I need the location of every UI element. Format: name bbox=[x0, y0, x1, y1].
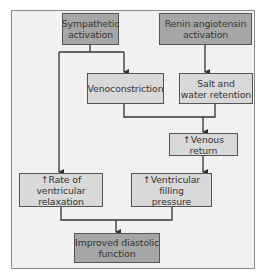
node-improved-diastolic-function: Improved diastolicfunction bbox=[74, 233, 160, 263]
node-rate-ventricular-relaxation: ↑Rate of ventricularrelaxation bbox=[19, 173, 103, 207]
node-label: Salt and bbox=[197, 78, 234, 89]
node-sympathetic-activation: Sympatheticactivation bbox=[62, 13, 119, 45]
node-label: activation bbox=[68, 29, 113, 40]
node-label: Improved diastolic bbox=[75, 237, 159, 248]
node-label: Renin angiotensin bbox=[165, 18, 247, 29]
node-label: ↑Rate of ventricular bbox=[36, 174, 85, 196]
node-salt-water-retention: Salt andwater retention bbox=[179, 73, 253, 104]
node-renin-angiotensin-activation: Renin angiotensinactivation bbox=[159, 13, 252, 45]
node-ventricular-filling-pressure: ↑Ventricular fillingpressure bbox=[131, 173, 212, 207]
node-label: Sympathetic bbox=[62, 18, 120, 29]
node-label: pressure bbox=[152, 196, 191, 207]
node-label: Venoconstriction bbox=[88, 83, 164, 94]
node-label: ↑Ventricular filling bbox=[143, 174, 200, 196]
node-label: relaxation bbox=[38, 196, 84, 207]
node-label: water retention bbox=[181, 89, 251, 100]
node-label: function bbox=[98, 248, 135, 259]
node-label: ↑Venous return bbox=[170, 134, 237, 156]
node-venous-return: ↑Venous return bbox=[169, 133, 238, 156]
node-venoconstriction: Venoconstriction bbox=[87, 73, 164, 104]
node-label: activation bbox=[183, 29, 228, 40]
